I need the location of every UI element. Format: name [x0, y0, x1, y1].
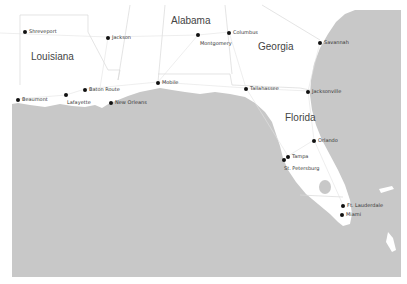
city-label: Miami: [346, 212, 361, 217]
state-label-florida: Florida: [285, 112, 316, 123]
city-st-petersburg[interactable]: St. Petersburg: [282, 158, 286, 162]
city-label: Lafayette: [67, 100, 91, 105]
city-label: Jacksonville: [312, 89, 341, 94]
city-savannah[interactable]: Savannah: [318, 40, 349, 45]
city-shreveport[interactable]: Shreveport: [23, 29, 57, 34]
city-label: Baton Route: [89, 87, 120, 92]
state-label-alabama: Alabama: [171, 15, 210, 26]
city-marker-icon: [64, 93, 68, 97]
city-label: Mobile: [162, 80, 178, 85]
city-label: Savannah: [324, 40, 349, 45]
city-columbus[interactable]: Columbus: [227, 30, 258, 35]
city-tampa[interactable]: Tampa: [286, 154, 308, 159]
city-label: Tallahassee: [250, 86, 279, 91]
city-orlando[interactable]: Orlando: [312, 138, 338, 143]
city-lafayette[interactable]: Lafayette: [64, 93, 68, 97]
state-label-georgia: Georgia: [258, 41, 294, 52]
city-marker-icon: [156, 81, 160, 85]
city-ft-lauderdale[interactable]: Ft. Lauderdale: [341, 203, 383, 208]
city-marker-icon: [23, 30, 27, 34]
city-marker-icon: [109, 101, 113, 105]
city-marker-icon: [318, 41, 322, 45]
city-marker-icon: [312, 139, 316, 143]
city-miami[interactable]: Miami: [340, 212, 361, 217]
city-mobile[interactable]: Mobile: [156, 80, 178, 85]
city-new-orleans[interactable]: New Orleans: [109, 100, 147, 105]
city-marker-icon: [196, 33, 200, 37]
city-label: Beaumont: [22, 97, 48, 102]
city-label: Shreveport: [29, 29, 57, 34]
city-label: Orlando: [318, 138, 338, 143]
city-marker-icon: [306, 90, 310, 94]
city-marker-icon: [244, 87, 248, 91]
city-tallahassee[interactable]: Tallahassee: [244, 86, 279, 91]
city-marker-icon: [106, 36, 110, 40]
city-label: Tampa: [292, 154, 308, 159]
state-label-louisiana: Louisiana: [31, 51, 74, 62]
city-label: Montgomery: [200, 41, 232, 46]
city-label: Columbus: [233, 30, 258, 35]
city-label: Ft. Lauderdale: [347, 203, 383, 208]
city-label: St. Petersburg: [284, 166, 319, 171]
city-marker-icon: [227, 31, 231, 35]
city-marker-icon: [286, 155, 290, 159]
city-jackson[interactable]: Jackson: [106, 35, 131, 40]
city-label: New Orleans: [115, 100, 147, 105]
map-canvas[interactable]: Louisiana Alabama Georgia Florida Shreve…: [0, 0, 407, 284]
city-beaumont[interactable]: Beaumont: [16, 97, 48, 102]
city-marker-icon: [341, 204, 345, 208]
city-montgomery[interactable]: Montgomery: [196, 33, 200, 37]
city-baton-rouge[interactable]: Baton Route: [83, 87, 120, 92]
city-marker-icon: [340, 213, 344, 217]
city-marker-icon: [282, 158, 286, 162]
city-marker-icon: [16, 98, 20, 102]
city-jacksonville[interactable]: Jacksonville: [306, 89, 341, 94]
city-marker-icon: [83, 88, 87, 92]
city-label: Jackson: [112, 35, 131, 40]
